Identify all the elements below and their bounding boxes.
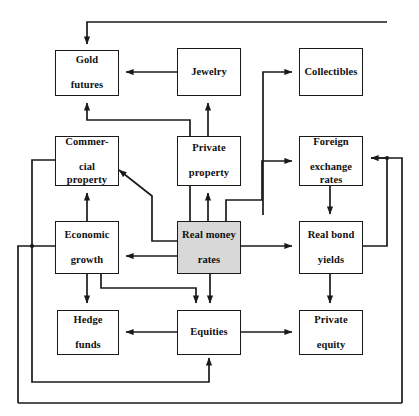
node-private-property[interactable]: Private property xyxy=(177,136,241,186)
node-label-line2: property xyxy=(187,167,231,180)
node-economic-growth[interactable]: Economic growth xyxy=(55,221,119,274)
junction-dot-right xyxy=(385,156,389,160)
node-label-line2: equity xyxy=(312,339,349,352)
node-label-line2: growth xyxy=(62,254,111,267)
node-label-line1: Jewelry xyxy=(189,66,229,79)
node-private-equity[interactable]: Private equity xyxy=(299,310,363,355)
node-label-line2: futures xyxy=(69,79,106,92)
node-label-line1: Gold xyxy=(69,54,106,67)
node-jewelry[interactable]: Jewelry xyxy=(177,48,241,96)
node-label-line1: Equities xyxy=(188,326,230,339)
node-label-line2: exchange rates xyxy=(302,161,360,186)
junction-dot-left xyxy=(30,244,34,248)
node-label-line1: Hedge xyxy=(71,314,104,327)
node-label-line2: funds xyxy=(71,339,104,352)
node-hedge-funds[interactable]: Hedge funds xyxy=(57,310,119,355)
edge-real-bond-yields-to-fx-rates xyxy=(363,158,387,246)
node-equities[interactable]: Equities xyxy=(177,310,241,355)
flow-diagram: Gold futures Jewelry Collectibles Commer… xyxy=(0,0,419,416)
node-label-line1: Real money xyxy=(180,229,238,242)
node-fx-rates[interactable]: Foreign exchange rates xyxy=(299,136,363,186)
node-label-line1: Economic xyxy=(62,229,111,242)
edge-real-money-rates-to-commercial-property xyxy=(119,170,177,241)
node-label-line1: Real bond xyxy=(306,229,357,242)
node-label-line2: cial property xyxy=(58,161,116,186)
node-collectibles[interactable]: Collectibles xyxy=(299,48,363,96)
node-real-money-rates[interactable]: Real money rates xyxy=(177,221,241,274)
node-label-line2: rates xyxy=(180,254,238,267)
edge-economic-growth-to-equities xyxy=(101,274,196,303)
node-label-line1: Private xyxy=(312,314,349,327)
node-label-line1: Commer- xyxy=(58,136,116,149)
node-label-line1: Foreign xyxy=(302,136,360,149)
edge-economic-growth-left-outer xyxy=(18,246,55,403)
node-gold-futures[interactable]: Gold futures xyxy=(55,50,119,96)
edge-real-money-rates-to-collectibles xyxy=(263,72,292,215)
node-real-bond-yields[interactable]: Real bond yields xyxy=(299,221,363,274)
node-label-line1: Collectibles xyxy=(302,66,359,79)
node-commercial-property[interactable]: Commer- cial property xyxy=(55,136,119,186)
node-label-line1: Private xyxy=(187,142,231,155)
node-label-line2: yields xyxy=(306,254,357,267)
edge-economic-growth-to-gold-futures xyxy=(87,22,387,44)
